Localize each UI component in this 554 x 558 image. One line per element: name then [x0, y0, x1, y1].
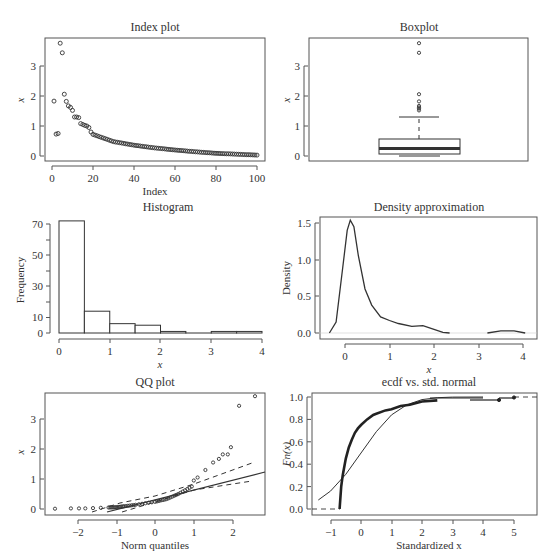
panel-title: Index plot [131, 20, 181, 34]
svg-text:3: 3 [31, 60, 37, 72]
svg-text:70: 70 [32, 218, 44, 230]
svg-text:4: 4 [520, 350, 526, 362]
panel-index-plot: Index plot 0123 x 02040 6080100 Index [14, 20, 266, 197]
svg-text:5: 5 [511, 526, 517, 538]
x-axis-label: x [157, 358, 163, 370]
panel-title: QQ plot [136, 375, 176, 389]
y-axis [40, 66, 44, 156]
y-axis [46, 224, 50, 333]
svg-text:0.8: 0.8 [289, 413, 303, 425]
normal-cdf-curve [318, 397, 483, 500]
svg-text:3: 3 [450, 526, 456, 538]
y-axis [315, 223, 319, 333]
svg-text:4: 4 [259, 345, 265, 357]
plot-box [45, 38, 265, 161]
svg-text:1.0: 1.0 [289, 391, 303, 403]
y-tick-labels: 0123 [31, 60, 37, 162]
x-axis-label: Norm quantiles [121, 539, 189, 551]
y-tick-labels: 0123 [31, 413, 37, 515]
svg-text:0.0: 0.0 [297, 327, 311, 339]
x-axis-label: Standardized x [396, 539, 462, 551]
panel-title: Boxplot [400, 20, 439, 34]
svg-text:0: 0 [152, 526, 158, 538]
panel-density: Density approximation 0.00.51.01.5 Densi… [280, 200, 537, 375]
panel-histogram: Histogram 01030 5070 Frequency 012 34 x [14, 200, 265, 370]
y-axis-label: Frequency [14, 256, 26, 303]
svg-text:−1: −1 [111, 526, 123, 538]
horizontal-bounds [312, 397, 537, 509]
svg-text:3: 3 [295, 60, 301, 72]
density-curve [329, 220, 525, 333]
svg-text:1: 1 [31, 473, 37, 485]
panel-ecdf: ecdf vs. std. normal 0.00.20.4 0.60.81.0… [280, 375, 537, 551]
svg-text:0: 0 [38, 327, 44, 339]
svg-text:100: 100 [249, 172, 266, 184]
svg-text:1.0: 1.0 [297, 254, 311, 266]
ecdf-step-curve [340, 400, 438, 509]
svg-text:0: 0 [342, 350, 348, 362]
panel-title: Density approximation [374, 200, 484, 214]
data-points [53, 395, 256, 511]
y-axis-label: x [14, 97, 26, 103]
svg-text:0: 0 [49, 172, 55, 184]
svg-text:0: 0 [56, 345, 62, 357]
outlier-points [417, 42, 420, 112]
histogram-bars [59, 221, 262, 333]
reference-lines [92, 463, 265, 512]
svg-text:1: 1 [191, 526, 197, 538]
x-axis [345, 344, 523, 348]
upper-envelope [92, 463, 252, 512]
x-tick-labels: 012 34 [56, 345, 265, 357]
svg-text:0: 0 [358, 526, 364, 538]
svg-text:0.2: 0.2 [289, 481, 303, 493]
plot-box [320, 217, 537, 339]
panel-qq-plot: QQ plot 0123 x −2−10 12 Norm quantiles [14, 375, 265, 551]
y-axis-label: Fn(x) [280, 441, 293, 467]
svg-text:3: 3 [31, 413, 37, 425]
x-axis-label: Index [142, 185, 168, 197]
x-axis [52, 166, 257, 170]
panel-boxplot: Boxplot 0123 x [280, 20, 528, 162]
y-tick-labels: 0123 [295, 60, 301, 162]
x-axis [331, 520, 514, 524]
svg-text:50: 50 [32, 249, 44, 261]
y-axis-label: x [280, 97, 292, 103]
y-axis-label: x [14, 449, 26, 455]
svg-text:−2: −2 [72, 526, 84, 538]
svg-text:1: 1 [107, 345, 113, 357]
lower-envelope [122, 481, 252, 512]
svg-text:0.0: 0.0 [289, 503, 303, 515]
y-axis [307, 397, 311, 509]
svg-text:2: 2 [31, 443, 37, 455]
svg-text:3: 3 [208, 345, 214, 357]
figure-grid: Index plot 0123 x 02040 6080100 Index Bo… [0, 0, 554, 558]
data-points [52, 41, 259, 157]
y-axis-label: Density [280, 260, 292, 295]
svg-text:1.5: 1.5 [297, 217, 311, 229]
svg-text:2: 2 [431, 350, 437, 362]
x-tick-labels: −2−10 12 [72, 526, 236, 538]
svg-text:40: 40 [129, 172, 141, 184]
svg-text:30: 30 [32, 280, 44, 292]
svg-text:80: 80 [211, 172, 223, 184]
svg-text:3: 3 [476, 350, 482, 362]
svg-text:0: 0 [295, 150, 301, 162]
y-axis [40, 419, 44, 509]
x-axis [59, 339, 262, 343]
panel-title: ecdf vs. std. normal [382, 375, 477, 389]
svg-text:2: 2 [230, 526, 236, 538]
svg-text:1: 1 [295, 120, 301, 132]
x-tick-labels: 012 34 [342, 350, 526, 362]
svg-text:10: 10 [32, 311, 44, 323]
y-tick-labels: 01030 5070 [32, 218, 44, 339]
plot-box [45, 393, 265, 515]
x-axis [78, 520, 233, 524]
svg-text:2: 2 [157, 345, 163, 357]
svg-text:−1: −1 [325, 526, 337, 538]
svg-text:60: 60 [170, 172, 182, 184]
svg-text:20: 20 [88, 172, 100, 184]
panel-title: Histogram [143, 200, 194, 214]
svg-text:2: 2 [31, 90, 37, 102]
svg-text:0: 0 [31, 503, 37, 515]
svg-text:0: 0 [31, 150, 37, 162]
